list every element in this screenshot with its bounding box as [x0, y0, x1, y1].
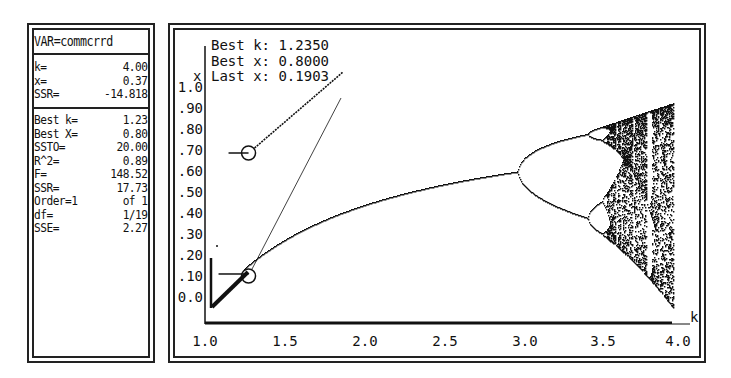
y-tick-label: .20: [178, 247, 203, 263]
x-tick-label: 2.5: [432, 333, 457, 349]
bifurcation-points: [244, 103, 674, 309]
y-tick-label: 0.0: [178, 289, 203, 305]
x-tick-label: 1.0: [192, 333, 217, 349]
y-tick-label: .90: [178, 100, 203, 116]
fit-info-line: Last x: 0.1903: [211, 68, 329, 84]
x-axis-label: k: [690, 309, 699, 325]
fit-info-line: Best x: 0.8000: [211, 53, 329, 69]
plot-area: [211, 103, 674, 309]
bifurcation-chart: k x 1.0.90.80.70.60.50.40.30.20.100.0 1.…: [0, 0, 731, 378]
x-tick-label: 1.5: [272, 333, 297, 349]
x-tick-label: 4.0: [665, 333, 690, 349]
y-tick-label: .80: [178, 121, 203, 137]
y-tick-label: .60: [178, 163, 203, 179]
fit-info-text: Best k: 1.2350Best x: 0.8000Last x: 0.19…: [211, 37, 329, 84]
y-tick-labels: 1.0.90.80.70.60.50.40.30.20.100.0: [178, 79, 203, 305]
x-tick-label: 3.0: [512, 333, 537, 349]
x-tick-labels: 1.01.52.02.53.03.54.0: [192, 333, 690, 349]
last-fit-leader-line: [252, 98, 341, 270]
y-tick-label: .10: [178, 268, 203, 284]
fit-markers: [219, 72, 343, 283]
fit-info-line: Best k: 1.2350: [211, 37, 329, 53]
y-tick-label: .50: [178, 184, 203, 200]
y-tick-label: 1.0: [178, 79, 203, 95]
y-tick-label: .70: [178, 142, 203, 158]
transient-cluster: [212, 272, 248, 307]
y-tick-label: .40: [178, 205, 203, 221]
y-tick-label: .30: [178, 226, 203, 242]
x-tick-label: 3.5: [590, 333, 615, 349]
x-tick-label: 2.0: [352, 333, 377, 349]
